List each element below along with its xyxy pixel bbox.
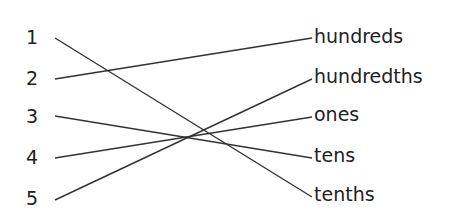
left-item-3: 3: [26, 107, 38, 126]
right-item-ones: ones: [314, 105, 359, 124]
right-item-hundreds: hundreds: [314, 27, 403, 46]
matching-diagram: 1 2 3 4 5 hundreds hundredths ones tens …: [0, 0, 473, 220]
left-item-1: 1: [26, 28, 38, 47]
line-2-hundreds: [55, 38, 312, 79]
right-item-tens: tens: [314, 146, 355, 165]
left-item-2: 2: [26, 69, 38, 88]
right-item-hundredths: hundredths: [314, 67, 423, 86]
left-item-4: 4: [26, 148, 38, 167]
right-item-tenths: tenths: [314, 185, 375, 204]
left-item-5: 5: [26, 189, 38, 208]
line-5-hundredths: [55, 79, 312, 200]
line-1-tenths: [55, 38, 312, 197]
